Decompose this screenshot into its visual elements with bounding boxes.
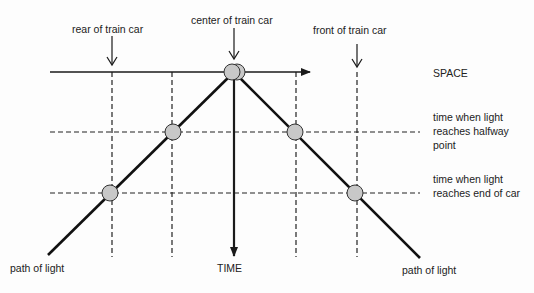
front-end-marker: [347, 185, 363, 201]
label-space-axis: SPACE: [433, 66, 468, 80]
label-path-of-light-right: path of light: [402, 263, 456, 277]
light-path-right: [234, 72, 420, 258]
label-front-of-train-car: front of train car: [313, 23, 387, 37]
label-halfway-time: time when light reaches halfway point: [433, 110, 529, 152]
label-center-of-train-car: center of train car: [191, 13, 273, 27]
label-path-of-light-left: path of light: [10, 261, 64, 275]
label-end-time: time when light reaches end of car: [433, 172, 529, 200]
right-halfway-marker: [287, 124, 303, 140]
left-halfway-marker: [165, 124, 181, 140]
rear-end-marker: [102, 185, 118, 201]
center-event-marker-a: [224, 64, 240, 80]
label-time-axis: TIME: [217, 261, 242, 275]
label-rear-of-train-car: rear of train car: [72, 22, 143, 36]
light-path-left: [48, 72, 234, 255]
